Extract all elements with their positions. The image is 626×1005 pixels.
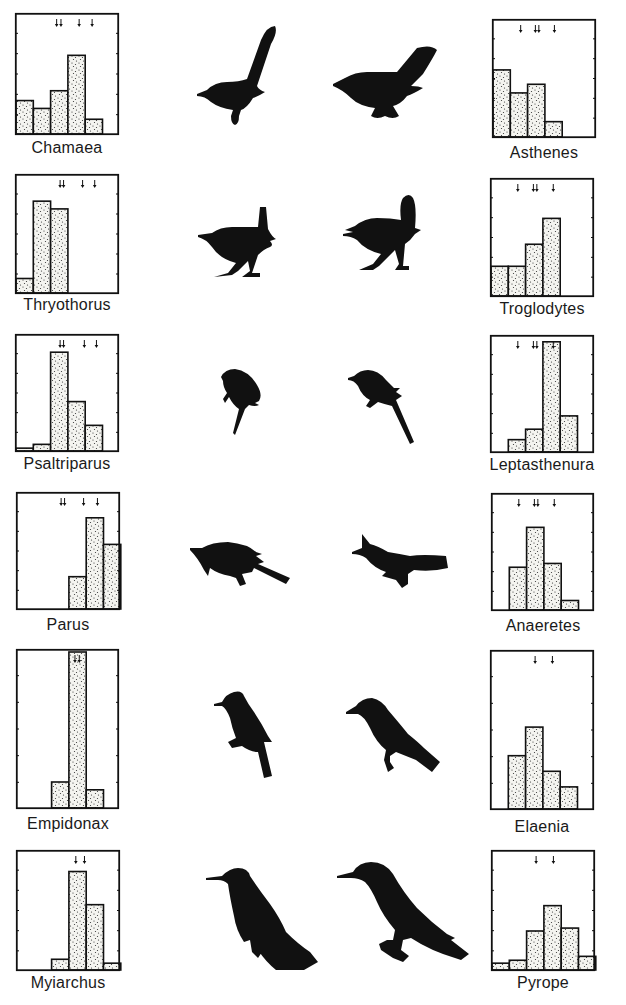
wrentit-long-tail-bird-icon (195, 24, 285, 130)
histogram-chart (16, 492, 139, 610)
mean-arrow-icon (77, 19, 81, 27)
histogram-bar (491, 266, 508, 296)
histogram-chart (492, 19, 596, 138)
histogram-bar (526, 244, 543, 296)
histogram-chart (15, 334, 119, 452)
histogram-bar (526, 429, 543, 452)
genus-label: Anaeretes (481, 617, 605, 635)
histogram-bar (104, 544, 121, 609)
histogram-panel-troglodytes: Troglodytes (490, 178, 594, 297)
histogram-panel-leptasthenura: Leptasthenura (490, 335, 594, 453)
histogram-bar (69, 872, 86, 970)
histogram-chart (15, 13, 119, 135)
genus-label: Psaltriparus (1, 455, 133, 473)
histogram-bar (33, 108, 50, 134)
mean-arrow-icon (55, 19, 59, 27)
genus-label: Troglodytes (480, 300, 604, 318)
histogram-bar (509, 960, 526, 970)
bushtit-perched-bird-icon (219, 369, 265, 437)
histogram-bar (543, 342, 560, 452)
histogram-bar (543, 218, 560, 296)
mean-arrow-icon (552, 499, 556, 507)
mean-arrow-icon (534, 25, 538, 33)
mean-arrow-icon (519, 25, 523, 33)
genus-label: Chamaea (5, 139, 129, 157)
histogram-bar (528, 84, 545, 137)
mean-arrow-icon (59, 498, 63, 506)
histogram-panel-empidonax: Empidonax (16, 649, 119, 809)
tit-spinetail-bird-icon (348, 370, 418, 446)
histogram-bar (16, 279, 33, 294)
histogram-chart (16, 850, 139, 971)
mean-arrow-icon (553, 25, 557, 33)
histogram-bar (33, 444, 50, 451)
histogram-bar (560, 416, 577, 452)
histogram-bar (33, 201, 50, 293)
histogram-bar (52, 782, 69, 808)
mean-arrow-icon (535, 184, 539, 192)
histogram-bar (543, 771, 560, 809)
genus-label: Empidonax (6, 815, 130, 833)
histogram-panel-parus: Parus (16, 492, 139, 610)
genus-label: Leptasthenura (474, 456, 610, 474)
histogram-bar (544, 563, 561, 610)
mean-arrow-icon (62, 340, 66, 348)
histogram-bar (86, 518, 103, 609)
mean-arrow-icon (83, 856, 87, 864)
mean-arrow-icon (551, 184, 555, 192)
mean-arrow-icon (93, 180, 97, 188)
mean-arrow-icon (90, 19, 94, 27)
histogram-bar (69, 577, 86, 609)
histogram-bar (561, 601, 578, 611)
histogram-bar (68, 55, 85, 134)
genus-label: Thryothorus (5, 296, 129, 314)
mean-arrow-icon (516, 341, 520, 349)
histogram-bar (527, 931, 544, 970)
histogram-bar (492, 963, 509, 970)
histogram-panel-asthenes: Asthenes (492, 19, 596, 138)
histogram-chart (491, 493, 594, 611)
mean-arrow-icon (74, 856, 78, 864)
genus-label: Myiarchus (6, 974, 130, 992)
histogram-bar (51, 209, 68, 293)
mean-arrow-icon (534, 856, 538, 864)
mean-arrow-icon (95, 340, 99, 348)
histogram-bar (545, 122, 562, 137)
histogram-bar (104, 963, 121, 970)
flycatcher-perched-bird-icon (214, 690, 278, 782)
histogram-panel-pyrope: Pyrope (491, 850, 614, 971)
mean-arrow-icon (532, 341, 536, 349)
wren-cocked-tail-bird-icon (198, 205, 280, 279)
mean-arrow-icon (551, 656, 555, 664)
histogram-bar (508, 266, 525, 296)
histogram-panel-thryothorus: Thryothorus (15, 174, 119, 294)
titmouse-crested-bird-icon (190, 542, 294, 590)
histogram-bar (544, 906, 561, 970)
mean-arrow-icon (96, 498, 100, 506)
canastero-fan-tail-bird-icon (333, 44, 439, 124)
mean-arrow-icon (535, 341, 539, 349)
histogram-bar (86, 790, 103, 808)
histogram-panel-chamaea: Chamaea (15, 13, 119, 135)
histogram-bar (68, 402, 85, 451)
mean-arrow-icon (81, 180, 85, 188)
histogram-bar (493, 70, 510, 137)
histogram-bar (579, 956, 596, 970)
histogram-bar (508, 756, 525, 809)
mean-arrow-icon (536, 499, 540, 507)
mean-arrow-icon (83, 340, 87, 348)
myiarchus-perched-bird-icon (206, 866, 324, 972)
mean-arrow-icon (82, 498, 86, 506)
mean-arrow-icon (537, 25, 541, 33)
histogram-bar (86, 905, 103, 970)
histogram-chart (491, 850, 614, 971)
histogram-bar (526, 727, 543, 809)
histogram-chart (490, 335, 594, 453)
pyrope-perched-bird-icon (337, 860, 473, 966)
mean-arrow-icon (552, 856, 556, 864)
histogram-chart (15, 174, 119, 294)
mean-arrow-icon (533, 499, 537, 507)
histogram-bar (52, 959, 69, 970)
histogram-bar (85, 119, 102, 134)
wren-round-tail-bird-icon (343, 194, 425, 276)
